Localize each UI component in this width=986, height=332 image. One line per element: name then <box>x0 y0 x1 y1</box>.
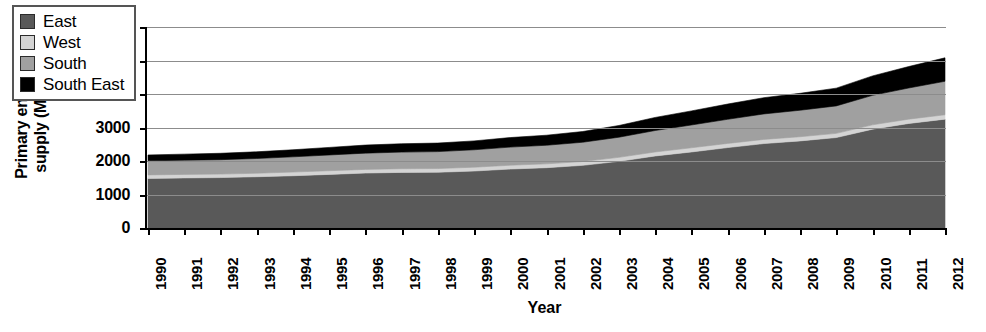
y-axis-tick-3000 <box>140 128 147 130</box>
gridline-4000 <box>147 94 946 95</box>
x-tick-label-2003: 2003 <box>623 230 639 290</box>
x-tick-label-2001: 2001 <box>551 230 567 290</box>
x-tick-label-1995: 1995 <box>333 230 349 290</box>
x-tick-label-2005: 2005 <box>695 230 711 290</box>
gridline-6000 <box>147 27 946 28</box>
x-tick-label-1998: 1998 <box>442 230 458 290</box>
x-tick-label-2010: 2010 <box>877 230 893 290</box>
legend-swatch-icon <box>20 35 35 50</box>
y-axis-tick-1000 <box>140 195 147 197</box>
x-tick-label-1990: 1990 <box>152 230 168 290</box>
x-tick-label-2002: 2002 <box>587 230 603 290</box>
gridline-5000 <box>147 61 946 62</box>
x-tick-label-1996: 1996 <box>369 230 385 290</box>
y-tick-label-1000: 1000 <box>96 186 130 204</box>
y-tick-label-0: 0 <box>121 219 130 237</box>
chart-figure: Primary energy supply (Mtoe) 01000200030… <box>0 0 986 332</box>
x-tick-label-2007: 2007 <box>768 230 784 290</box>
legend-item-west: West <box>20 32 124 53</box>
legend-item-east: East <box>20 11 124 32</box>
x-tick-label-1999: 1999 <box>478 230 494 290</box>
x-tick-label-2000: 2000 <box>514 230 530 290</box>
y-axis-tick-2000 <box>140 161 147 163</box>
y-axis-tick-6000 <box>140 27 147 29</box>
chart-legend: EastWestSouthSouth East <box>12 5 136 101</box>
y-axis-tick-4000 <box>140 94 147 96</box>
legend-swatch-icon <box>20 77 35 92</box>
legend-swatch-icon <box>20 14 35 29</box>
x-tick-label-2009: 2009 <box>840 230 856 290</box>
legend-label: South East <box>43 75 124 95</box>
legend-label: East <box>43 12 76 32</box>
y-tick-label-2000: 2000 <box>96 152 130 170</box>
x-tick-label-1997: 1997 <box>406 230 422 290</box>
legend-item-south-east: South East <box>20 74 124 95</box>
x-tick-label-2006: 2006 <box>732 230 748 290</box>
gridline-3000 <box>147 128 946 129</box>
x-axis-tick-labels: 1990199119921993199419951996199719981999… <box>145 232 955 292</box>
x-tick-label-1991: 1991 <box>188 230 204 290</box>
legend-item-south: South <box>20 53 124 74</box>
x-tick-label-1994: 1994 <box>297 230 313 290</box>
x-tick-label-2004: 2004 <box>659 230 675 290</box>
x-tick-label-2008: 2008 <box>804 230 820 290</box>
y-axis-tick-5000 <box>140 61 147 63</box>
x-tick-label-2011: 2011 <box>913 230 929 290</box>
plot-area <box>145 27 946 230</box>
legend-swatch-icon <box>20 56 35 71</box>
legend-label: West <box>43 33 81 53</box>
gridline-1000 <box>147 195 946 196</box>
x-tick-label-1993: 1993 <box>261 230 277 290</box>
y-axis-tick-0 <box>140 228 147 230</box>
x-axis-title: Year <box>145 299 944 317</box>
x-tick-label-1992: 1992 <box>224 230 240 290</box>
legend-label: South <box>43 54 86 74</box>
gridline-2000 <box>147 161 946 162</box>
y-tick-label-3000: 3000 <box>96 119 130 137</box>
x-tick-label-2012: 2012 <box>949 230 965 290</box>
